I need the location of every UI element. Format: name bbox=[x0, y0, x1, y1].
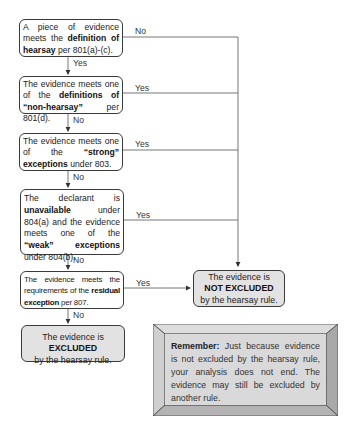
remember-note: Remember: Just because evidence is not e… bbox=[153, 324, 338, 416]
edge-label-q5-down: No bbox=[73, 310, 84, 320]
edge-label-q5-right: Yes bbox=[136, 278, 150, 288]
excluded-post: by the hearsay rule. bbox=[34, 355, 111, 365]
edge-label-q1-right: No bbox=[135, 26, 146, 36]
decision-weak-exceptions: The declarant is unavailable under 804(a… bbox=[20, 189, 124, 255]
outcome-not-excluded: The evidence is NOT EXCLUDED by the hear… bbox=[193, 270, 285, 307]
edge-label-q4-right: Yes bbox=[136, 210, 150, 220]
node-text-bold: “weak” exceptions bbox=[24, 240, 120, 250]
decision-definition-of-hearsay: A piece of evidence meets the definition… bbox=[19, 19, 123, 57]
edge-label-q3-down: No bbox=[73, 172, 84, 182]
node-text: The declarant is bbox=[24, 193, 120, 203]
node-text-bold: unavailable bbox=[24, 205, 71, 215]
edge-label-q2-right: Yes bbox=[135, 83, 149, 93]
not-excluded-post: by the hearsay rule. bbox=[200, 295, 277, 305]
remember-label: Remember: bbox=[171, 341, 219, 351]
node-text: per 807. bbox=[59, 298, 88, 307]
outcome-excluded: The evidence is EXCLUDED by the hearsay … bbox=[21, 325, 125, 362]
excluded-bold: EXCLUDED bbox=[49, 343, 97, 353]
decision-strong-exceptions: The evidence meets one of the “strong” e… bbox=[19, 133, 123, 171]
decision-non-hearsay: The evidence meets one of the definition… bbox=[19, 76, 123, 114]
edge-label-q1-down: Yes bbox=[73, 58, 87, 68]
node-text: under 803. bbox=[68, 159, 111, 169]
node-text: per 801(a)-(c). bbox=[56, 45, 113, 55]
node-text: under 804(b). bbox=[24, 252, 76, 262]
not-excluded-pre: The evidence is bbox=[208, 272, 270, 282]
not-excluded-bold: NOT EXCLUDED bbox=[204, 283, 273, 293]
excluded-pre: The evidence is bbox=[42, 332, 104, 342]
decision-residual-exception: The evidence meets the requirements of t… bbox=[20, 271, 124, 309]
edge-label-q2-down: No bbox=[73, 115, 84, 125]
edge-label-q3-right: Yes bbox=[135, 139, 149, 149]
edge-label-q4-down: No bbox=[73, 255, 84, 265]
